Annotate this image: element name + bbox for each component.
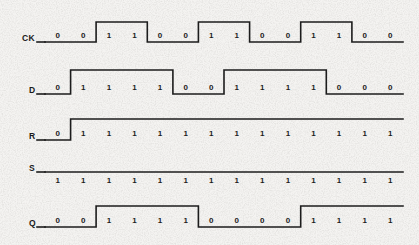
bit-value-d-7: 1 <box>231 83 243 92</box>
bit-value-r-5: 1 <box>180 129 192 138</box>
bit-value-ck-12: 0 <box>359 31 371 40</box>
bit-value-ck-7: 1 <box>231 31 243 40</box>
bit-value-q-7: 0 <box>231 216 243 225</box>
bit-value-ck-3: 1 <box>129 31 141 40</box>
bit-value-s-10: 1 <box>308 176 320 185</box>
bit-value-r-0: 0 <box>52 129 64 138</box>
bit-value-r-11: 1 <box>333 129 345 138</box>
bit-value-d-12: 0 <box>359 83 371 92</box>
bit-value-ck-5: 0 <box>180 31 192 40</box>
waveform-trace-q <box>45 206 403 227</box>
bit-value-r-1: 1 <box>77 129 89 138</box>
bit-value-d-0: 0 <box>52 83 64 92</box>
bit-value-d-10: 1 <box>308 83 320 92</box>
bit-value-q-13: 1 <box>384 216 396 225</box>
signal-label-r: R <box>29 131 35 141</box>
bit-value-d-5: 0 <box>180 83 192 92</box>
bit-value-r-3: 1 <box>129 129 141 138</box>
bit-value-s-3: 1 <box>129 176 141 185</box>
bit-value-d-6: 0 <box>205 83 217 92</box>
bit-value-s-9: 1 <box>282 176 294 185</box>
bit-value-d-4: 1 <box>154 83 166 92</box>
bit-value-d-2: 1 <box>103 83 115 92</box>
signal-label-ck: CK <box>22 33 35 43</box>
bit-value-q-8: 0 <box>256 216 268 225</box>
bit-value-q-1: 0 <box>77 216 89 225</box>
bit-value-s-11: 1 <box>333 176 345 185</box>
bit-value-d-3: 1 <box>129 83 141 92</box>
bit-value-s-5: 1 <box>180 176 192 185</box>
bit-value-ck-10: 1 <box>308 31 320 40</box>
bit-value-r-9: 1 <box>282 129 294 138</box>
bit-value-q-3: 1 <box>129 216 141 225</box>
waveform-trace-d <box>45 70 403 94</box>
bit-value-ck-4: 0 <box>154 31 166 40</box>
bit-value-r-4: 1 <box>154 129 166 138</box>
waveform-trace-r <box>45 119 403 140</box>
bit-value-q-10: 1 <box>308 216 320 225</box>
bit-value-q-6: 0 <box>205 216 217 225</box>
bit-value-ck-1: 0 <box>77 31 89 40</box>
bit-value-r-2: 1 <box>103 129 115 138</box>
bit-value-ck-0: 0 <box>52 31 64 40</box>
bit-value-q-4: 1 <box>154 216 166 225</box>
signal-label-s: S <box>29 163 35 173</box>
bit-value-d-8: 1 <box>256 83 268 92</box>
bit-value-r-6: 1 <box>205 129 217 138</box>
signal-label-q: Q <box>29 218 36 228</box>
bit-value-q-0: 0 <box>52 216 64 225</box>
bit-value-s-0: 1 <box>52 176 64 185</box>
bit-value-q-11: 1 <box>333 216 345 225</box>
bit-value-ck-9: 0 <box>282 31 294 40</box>
signal-label-d: D <box>29 85 35 95</box>
bit-value-ck-13: 0 <box>384 31 396 40</box>
bit-value-q-2: 1 <box>103 216 115 225</box>
bit-value-r-12: 1 <box>359 129 371 138</box>
bit-value-ck-11: 1 <box>333 31 345 40</box>
bit-value-s-7: 1 <box>231 176 243 185</box>
bit-value-r-8: 1 <box>256 129 268 138</box>
bit-value-s-2: 1 <box>103 176 115 185</box>
bit-value-d-9: 1 <box>282 83 294 92</box>
bit-value-s-1: 1 <box>77 176 89 185</box>
bit-value-r-13: 1 <box>384 129 396 138</box>
bit-value-q-12: 1 <box>359 216 371 225</box>
timing-diagram-page: CK00110011001100D01111001111000R01111111… <box>0 0 419 245</box>
bit-value-r-10: 1 <box>308 129 320 138</box>
waveform-trace-ck <box>45 22 403 42</box>
bit-value-s-6: 1 <box>205 176 217 185</box>
bit-value-s-12: 1 <box>359 176 371 185</box>
bit-value-s-13: 1 <box>384 176 396 185</box>
bit-value-ck-2: 1 <box>103 31 115 40</box>
bit-value-q-5: 1 <box>180 216 192 225</box>
bit-value-q-9: 0 <box>282 216 294 225</box>
bit-value-r-7: 1 <box>231 129 243 138</box>
bit-value-s-4: 1 <box>154 176 166 185</box>
bit-value-d-11: 0 <box>333 83 345 92</box>
bit-value-d-13: 0 <box>384 83 396 92</box>
bit-value-d-1: 1 <box>77 83 89 92</box>
bit-value-ck-6: 1 <box>205 31 217 40</box>
bit-value-ck-8: 0 <box>256 31 268 40</box>
bit-value-s-8: 1 <box>256 176 268 185</box>
